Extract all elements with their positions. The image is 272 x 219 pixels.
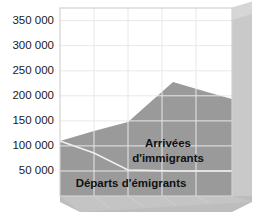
- chart-container: 350 000 300 000 250 000 200 000 150 000 …: [0, 0, 272, 219]
- series-label-arrivees-line1: Arrivées: [145, 137, 191, 149]
- y-tick-100000: 100 000: [12, 139, 54, 151]
- y-tick-350000: 350 000: [12, 14, 54, 26]
- y-tick-250000: 250 000: [12, 64, 54, 76]
- y-tick-200000: 200 000: [12, 89, 54, 101]
- y-tick-150000: 150 000: [12, 114, 54, 126]
- chart-right-wall: [232, 2, 252, 202]
- area-chart: 350 000 300 000 250 000 200 000 150 000 …: [0, 0, 272, 219]
- y-tick-300000: 300 000: [12, 39, 54, 51]
- y-tick-50000: 50 000: [19, 164, 54, 176]
- y-axis-tick-labels: 350 000 300 000 250 000 200 000 150 000 …: [12, 14, 54, 176]
- series-label-departs-emigrants: Départs d'émigrants: [76, 177, 187, 189]
- series-label-arrivees-line2: d'immigrants: [132, 152, 204, 164]
